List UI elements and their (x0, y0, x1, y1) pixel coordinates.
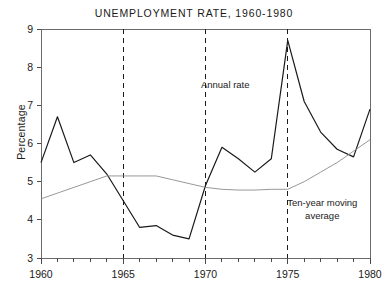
x-tick-label: 1970 (194, 268, 218, 280)
x-axis-ticks: 19601965197019751980 (29, 258, 382, 280)
y-tick-label: 8 (27, 61, 33, 73)
y-tick-label: 5 (27, 175, 33, 187)
annotation-label: Annual rate (201, 79, 250, 90)
chart-container: UNEMPLOYMENT RATE, 1960-1980 Percentage … (0, 0, 388, 295)
chart-plot-area: 3456789 19601965197019751980 Annual rate… (0, 0, 388, 295)
vertical-reference-lines (123, 29, 288, 258)
y-tick-label: 4 (27, 213, 33, 225)
plot-frame (41, 29, 370, 258)
annotation-label: Ten-year moving (287, 197, 357, 208)
y-tick-label: 9 (27, 23, 33, 35)
y-tick-label: 3 (27, 252, 33, 264)
y-tick-label: 7 (27, 99, 33, 111)
x-tick-label: 1975 (276, 268, 300, 280)
x-tick-label: 1960 (29, 268, 53, 280)
x-tick-label: 1965 (112, 268, 136, 280)
y-tick-label: 6 (27, 137, 33, 149)
y-axis-ticks: 3456789 (27, 23, 41, 264)
annotation-label: average (305, 210, 339, 221)
x-tick-label: 1980 (358, 268, 382, 280)
